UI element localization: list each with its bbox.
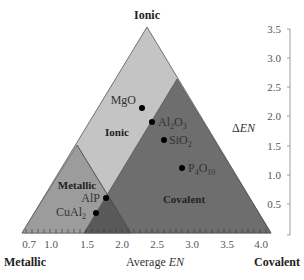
region-label-metallic: Metallic — [58, 179, 97, 191]
point-p4o10 — [179, 165, 185, 171]
y-tick-labels: 3.5 3.0 2.5 2.0 1.5 1.0 0.5 — [267, 23, 281, 210]
label-mgo: MgO — [111, 93, 137, 107]
point-cual2 — [93, 210, 99, 216]
y-tick: 1.0 — [267, 169, 281, 181]
point-sio2 — [161, 137, 167, 143]
x-tick: 1.0 — [44, 238, 58, 250]
delta-en-axis — [287, 29, 290, 235]
point-alp — [103, 195, 109, 201]
region-label-ionic: Ionic — [105, 126, 129, 138]
y-tick: 2.0 — [267, 110, 281, 122]
x-tick: 3.0 — [185, 238, 199, 250]
corner-label-metallic: Metallic — [4, 255, 47, 269]
corner-label-ionic: Ionic — [134, 8, 161, 22]
y-tick: 3.0 — [267, 52, 281, 64]
bonding-triangle-diagram: 3.5 3.0 2.5 2.0 1.5 1.0 0.5 ΔEN 0.7 1.0 … — [0, 0, 304, 280]
region-label-covalent: Covalent — [163, 193, 206, 205]
base-ticks — [26, 229, 266, 233]
label-cual2: CuAl2 — [56, 205, 86, 221]
y-axis-label: ΔEN — [232, 121, 256, 135]
x-tick: 1.5 — [80, 238, 94, 250]
y-tick: 3.5 — [267, 23, 281, 35]
x-tick: 2.0 — [115, 238, 129, 250]
point-al2o3 — [149, 119, 155, 125]
x-axis-label: Average EN — [126, 255, 185, 269]
y-tick: 2.5 — [267, 81, 281, 93]
x-tick: 4.0 — [254, 238, 268, 250]
x-tick: 0.7 — [22, 238, 36, 250]
point-mgo — [139, 105, 145, 111]
y-tick: 1.5 — [267, 140, 281, 152]
y-tick: 0.5 — [267, 198, 281, 210]
x-tick: 3.5 — [220, 238, 234, 250]
corner-label-covalent: Covalent — [254, 255, 300, 269]
x-tick-labels: 0.7 1.0 1.5 2.0 2.5 3.0 3.5 4.0 — [22, 238, 268, 250]
label-alp: AlP — [81, 191, 100, 205]
x-tick: 2.5 — [150, 238, 164, 250]
